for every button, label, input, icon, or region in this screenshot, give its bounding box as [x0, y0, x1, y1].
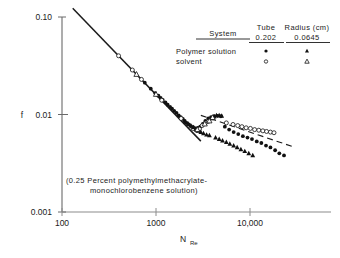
y-tick-label-mid: 0.01 [35, 110, 52, 120]
data-point [160, 98, 164, 102]
y-tick-label-top: 0.10 [35, 12, 52, 22]
data-point [272, 131, 276, 135]
legend-header-system: System [209, 29, 236, 38]
legend: System Tube 0.202 Radius (cm) 0.0645 Pol… [176, 23, 330, 66]
x-axis-label-sub: Re [190, 240, 198, 246]
data-point [232, 130, 236, 134]
data-point [244, 126, 248, 130]
data-point [253, 128, 257, 132]
data-point [264, 144, 268, 148]
legend-header-radius: Radius (cm) [285, 23, 330, 32]
data-point [139, 77, 143, 81]
x-tick-label-1000: 1000 [147, 218, 166, 228]
data-point [277, 151, 281, 155]
legend-marker-radius [305, 49, 309, 53]
friction-factor-chart: 0.10 0.01 0.001 f 100 1000 10,000 N Re [0, 0, 340, 258]
data-point [257, 128, 261, 132]
legend-value-tube: 0.202 [256, 33, 277, 42]
data-point [130, 68, 134, 72]
legend-marker-tube [264, 49, 267, 52]
data-point [241, 134, 245, 138]
figure-container: 0.10 0.01 0.001 f 100 1000 10,000 N Re [0, 0, 340, 258]
legend-row-label-polymer: Polymer solution [176, 47, 236, 56]
data-point [224, 140, 229, 144]
data-point [149, 87, 153, 91]
data-point [227, 128, 231, 132]
data-point [224, 121, 228, 125]
data-point [223, 125, 227, 129]
data-point [248, 126, 252, 130]
legend-row-label-solvent: solvent [176, 57, 202, 66]
data-point [255, 139, 259, 143]
data-point [231, 122, 235, 126]
annotation-line-2: monochlorobenzene solution) [90, 186, 198, 195]
data-point [213, 135, 218, 139]
data-point [231, 143, 236, 147]
legend-markers [264, 49, 309, 63]
data-point [143, 81, 147, 85]
legend-value-radius: 0.0645 [294, 33, 319, 42]
data-point [269, 145, 273, 149]
data-point [240, 125, 244, 129]
data-point [179, 116, 183, 120]
x-axis-label-main: N [180, 234, 186, 244]
y-tick-label-bottom: 0.001 [31, 207, 53, 217]
annotation-line-1: (0.25 Percent polymethylmethacrylate- [66, 176, 207, 185]
data-point [265, 129, 269, 133]
annotation-box: (0.25 Percent polymethylmethacrylate- mo… [66, 176, 207, 195]
data-point [236, 132, 240, 136]
legend-marker-radius [305, 59, 309, 63]
data-point [117, 54, 121, 58]
y-axis-label: f [21, 110, 24, 120]
x-axis-label: N Re [180, 234, 198, 246]
turbulent-reference-line [201, 115, 295, 147]
legend-marker-tube [264, 60, 267, 63]
x-tick-label-100: 100 [55, 218, 69, 228]
x-tick-label-10000: 10,000 [237, 218, 263, 228]
data-point [246, 136, 250, 140]
data-point [236, 124, 240, 128]
data-point [259, 141, 263, 145]
data-point [273, 148, 277, 152]
data-point [250, 137, 254, 141]
legend-header-tube: Tube [257, 23, 275, 32]
data-point [282, 154, 286, 158]
